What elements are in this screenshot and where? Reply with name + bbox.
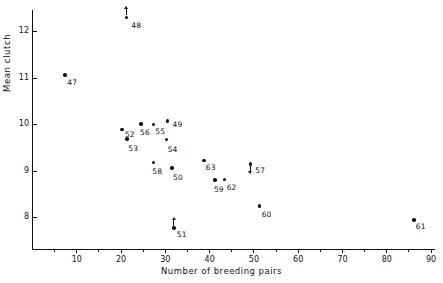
data-point xyxy=(258,204,262,208)
data-point-label: 62 xyxy=(227,183,237,192)
data-point xyxy=(120,128,124,132)
y-tick-mark xyxy=(33,78,37,79)
x-tick-minor xyxy=(187,249,188,252)
x-tick-label: 40 xyxy=(205,255,215,264)
data-point-label: 50 xyxy=(173,173,183,182)
x-axis-tick: 80 xyxy=(386,249,387,253)
x-axis-tick: 60 xyxy=(298,249,299,253)
uncertainty-arrow-head-down xyxy=(248,171,252,174)
data-point xyxy=(139,122,143,126)
data-point-label: 61 xyxy=(416,222,426,231)
data-point-label: 49 xyxy=(173,120,183,129)
x-axis-tick: 30 xyxy=(165,249,166,253)
data-point xyxy=(125,137,129,141)
data-point-label: 55 xyxy=(155,127,165,136)
y-tick-mark xyxy=(33,124,37,125)
uncertainty-arrow-head-up xyxy=(124,6,128,9)
x-tick-minor xyxy=(364,249,365,252)
y-tick-mark xyxy=(33,217,37,218)
x-tick-minor xyxy=(231,249,232,252)
data-point-label: 54 xyxy=(168,145,178,154)
data-point-label: 57 xyxy=(255,166,265,175)
data-point xyxy=(170,166,174,170)
y-tick-label: 9 xyxy=(24,166,29,175)
x-tick-minor xyxy=(408,249,409,252)
x-tick-minor xyxy=(320,249,321,252)
y-axis-title: Mean clutch xyxy=(2,34,12,92)
x-tick-label: 50 xyxy=(249,255,259,264)
x-tick-label: 20 xyxy=(116,255,126,264)
plot-area: 89101112 102030405060708090 474849505152… xyxy=(32,10,435,250)
x-tick-label: 30 xyxy=(160,255,170,264)
y-tick-mark xyxy=(33,171,37,172)
data-point xyxy=(166,119,170,123)
x-tick-minor xyxy=(98,249,99,252)
y-tick-label: 11 xyxy=(19,73,29,82)
data-point-label: 47 xyxy=(67,78,77,87)
x-tick-minor xyxy=(54,249,55,252)
uncertainty-arrow-head-up xyxy=(172,217,176,220)
data-point-label: 56 xyxy=(140,128,150,137)
x-tick-label: 90 xyxy=(426,255,436,264)
uncertainty-arrow-shaft xyxy=(173,220,174,226)
x-axis-tick: 20 xyxy=(121,249,122,253)
y-axis-line xyxy=(32,10,33,250)
data-point-label: 60 xyxy=(262,210,272,219)
x-tick-minor xyxy=(276,249,277,252)
x-axis-tick: 90 xyxy=(431,249,432,253)
data-point xyxy=(63,73,67,77)
x-tick-label: 70 xyxy=(337,255,347,264)
x-axis-tick: 40 xyxy=(209,249,210,253)
x-tick-label: 60 xyxy=(293,255,303,264)
x-tick-label: 10 xyxy=(72,255,82,264)
x-axis-tick: 50 xyxy=(253,249,254,253)
scatter-plot-figure: 89101112 102030405060708090 474849505152… xyxy=(0,0,443,283)
x-axis-title: Number of breeding pairs xyxy=(0,266,443,276)
data-point-label: 63 xyxy=(206,163,216,172)
x-axis-tick: 70 xyxy=(342,249,343,253)
data-point xyxy=(125,16,129,20)
data-point xyxy=(172,226,176,230)
data-point-label: 48 xyxy=(131,21,141,30)
x-axis-line xyxy=(32,249,435,250)
y-tick-label: 12 xyxy=(19,26,29,35)
x-tick-minor xyxy=(143,249,144,252)
data-point xyxy=(223,178,227,182)
x-tick-label: 80 xyxy=(382,255,392,264)
y-tick-label: 10 xyxy=(19,119,29,128)
x-axis-tick: 10 xyxy=(76,249,77,253)
data-point xyxy=(213,178,217,182)
data-point-label: 59 xyxy=(214,185,224,194)
data-point xyxy=(152,161,156,165)
data-point-label: 58 xyxy=(152,167,162,176)
data-point xyxy=(165,138,169,142)
y-tick-label: 8 xyxy=(24,212,29,221)
y-tick-mark xyxy=(33,31,37,32)
uncertainty-arrow-shaft xyxy=(126,9,127,15)
data-point-label: 51 xyxy=(177,230,187,239)
data-point-label: 53 xyxy=(128,144,138,153)
